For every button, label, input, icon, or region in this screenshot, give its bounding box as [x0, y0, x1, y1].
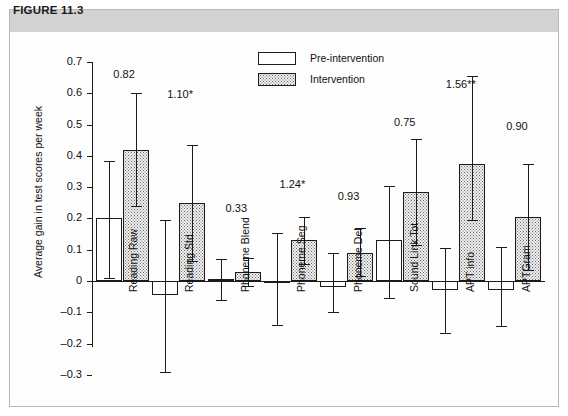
- y-axis-tick-label: 0.6: [48, 86, 82, 98]
- error-bar-cap-bottom-pre-1: [104, 278, 115, 279]
- effect-size-annotation-8: 0.90: [487, 120, 547, 132]
- x-axis-label-6: Sound Link Tot: [408, 223, 420, 292]
- error-bar-cap-top-post-1: [131, 93, 142, 94]
- y-axis-tick-label: 0.5: [48, 118, 82, 130]
- error-bar-pre-5: [333, 253, 334, 312]
- error-bar-cap-top-post-4: [299, 217, 310, 218]
- y-axis-line: [92, 62, 93, 347]
- y-axis-tick: [87, 218, 92, 219]
- figure-root: FIGURE 11.3 Average gain in test scores …: [0, 0, 568, 416]
- effect-size-annotation-5: 0.93: [319, 190, 379, 202]
- y-axis-tick-label: –0.1: [48, 305, 82, 317]
- error-bar-post-1: [136, 93, 137, 206]
- chart-plot-area: Average gain in test scores per week0.70…: [0, 0, 568, 416]
- error-bar-cap-bottom-pre-8: [496, 326, 507, 327]
- y-axis-tick: [87, 375, 92, 376]
- error-bar-cap-top-pre-2: [160, 220, 171, 221]
- effect-size-annotation-2: 1.10*: [150, 88, 210, 100]
- y-axis-tick: [87, 62, 92, 63]
- error-bar-cap-bottom-post-1: [131, 206, 142, 207]
- error-bar-cap-bottom-pre-3: [216, 300, 227, 301]
- y-axis-tick: [87, 93, 92, 94]
- error-bar-cap-top-pre-8: [496, 247, 507, 248]
- y-axis-title: Average gain in test scores per week: [32, 82, 44, 302]
- effect-size-annotation-3: 0.33: [206, 202, 266, 214]
- effect-size-annotation-7: 1.56**: [431, 78, 491, 90]
- error-bar-cap-top-pre-1: [104, 161, 115, 162]
- y-axis-tick: [87, 312, 92, 313]
- error-bar-cap-top-pre-3: [216, 259, 227, 260]
- error-bar-cap-top-pre-6: [384, 186, 395, 187]
- error-bar-pre-4: [277, 233, 278, 325]
- y-axis-tick-label: 0.2: [48, 211, 82, 223]
- x-axis-label-4: Phoneme Seg: [295, 225, 307, 292]
- legend-swatch-post-icon: [258, 73, 296, 86]
- x-axis-label-5: Phoneme Del: [352, 228, 364, 292]
- error-bar-cap-top-post-6: [411, 139, 422, 140]
- error-bar-cap-top-pre-7: [440, 248, 451, 249]
- error-bar-cap-bottom-pre-7: [440, 333, 451, 334]
- error-bar-cap-bottom-post-7: [467, 220, 478, 221]
- y-axis-tick: [87, 344, 92, 345]
- y-axis-tick-label: 0: [48, 274, 82, 286]
- error-bar-cap-top-post-8: [523, 164, 534, 165]
- error-bar-pre-8: [501, 247, 502, 327]
- error-bar-post-7: [472, 76, 473, 220]
- x-axis-label-2: Reading Std: [183, 234, 195, 292]
- y-axis-tick: [87, 125, 92, 126]
- error-bar-pre-6: [389, 186, 390, 299]
- error-bar-pre-1: [109, 161, 110, 278]
- x-axis-label-8: APTGram: [520, 245, 532, 292]
- legend-swatch-pre-icon: [258, 52, 296, 65]
- y-axis-tick-label: –0.3: [48, 368, 82, 380]
- x-axis-label-7: APT info: [464, 252, 476, 292]
- y-axis-tick: [87, 156, 92, 157]
- y-axis-tick-label: 0.3: [48, 180, 82, 192]
- effect-size-annotation-4: 1.24*: [262, 178, 322, 190]
- y-axis-tick-label: 0.1: [48, 243, 82, 255]
- error-bar-pre-2: [165, 220, 166, 372]
- y-axis-tick-label: 0.4: [48, 149, 82, 161]
- legend-label-1: Pre-intervention: [310, 52, 384, 64]
- error-bar-pre-3: [221, 259, 222, 300]
- x-axis-label-3: Phoneme Blend: [239, 217, 251, 292]
- error-bar-cap-top-pre-4: [272, 233, 283, 234]
- error-bar-pre-7: [445, 248, 446, 332]
- y-axis-tick: [87, 187, 92, 188]
- error-bar-cap-bottom-pre-5: [328, 312, 339, 313]
- legend-label-2: Intervention: [310, 73, 365, 85]
- y-axis-tick: [87, 250, 92, 251]
- error-bar-cap-top-post-7: [467, 76, 478, 77]
- error-bar-cap-top-post-2: [187, 145, 198, 146]
- effect-size-annotation-6: 0.75: [375, 116, 435, 128]
- x-axis-label-1: Reading Raw: [127, 229, 139, 292]
- y-axis-tick-label: –0.2: [48, 337, 82, 349]
- effect-size-annotation-1: 0.82: [94, 68, 154, 80]
- y-axis-tick-label: 0.7: [48, 55, 82, 67]
- error-bar-cap-top-pre-5: [328, 253, 339, 254]
- error-bar-cap-bottom-pre-6: [384, 298, 395, 299]
- error-bar-cap-bottom-pre-4: [272, 325, 283, 326]
- error-bar-cap-bottom-pre-2: [160, 372, 171, 373]
